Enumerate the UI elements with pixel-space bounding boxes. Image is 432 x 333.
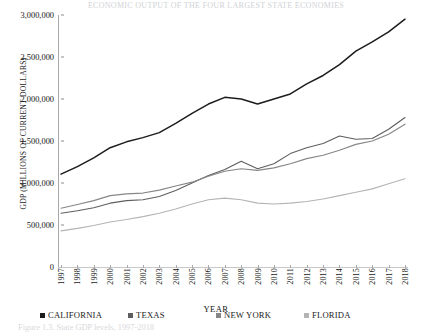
x-tick-mark	[127, 265, 128, 268]
x-tick-label: 2014	[335, 268, 344, 285]
y-tick-label: 2,500,000	[21, 53, 55, 62]
y-tick-label: 1,000,000	[21, 179, 55, 188]
x-tick-mark	[110, 265, 111, 268]
y-tick-label: 2,000,000	[21, 95, 55, 104]
x-tick-label: 2011	[286, 268, 295, 285]
plot-area: GDP (MILLIONS OF CURRENT DOLLARS) 0500,0…	[0, 9, 432, 305]
series-line-new-york	[61, 124, 405, 208]
x-tick-mark	[176, 265, 177, 268]
legend-item[interactable]: CALIFORNIA	[40, 310, 128, 320]
legend-item[interactable]: TEXAS	[128, 310, 216, 320]
x-tick-label: 1997	[57, 268, 66, 285]
x-tick-mark	[61, 265, 62, 268]
series-line-florida	[61, 179, 405, 231]
x-tick-mark	[192, 265, 193, 268]
x-tick-mark	[339, 265, 340, 268]
x-tick-mark	[323, 265, 324, 268]
x-tick-mark	[77, 265, 78, 268]
legend-label: CALIFORNIA	[48, 310, 102, 320]
x-tick-label: 2008	[237, 268, 246, 285]
legend-swatch-icon	[40, 313, 45, 318]
x-tick-label: 2009	[254, 268, 263, 285]
y-tick-label: 3,000,000	[21, 11, 55, 20]
x-tick-mark	[241, 265, 242, 268]
x-tick-mark	[372, 265, 373, 268]
x-tick-label: 2004	[172, 268, 181, 285]
x-tick-label: 2003	[155, 268, 164, 285]
legend-item[interactable]: NEW YORK	[216, 310, 304, 320]
x-tick-mark	[225, 265, 226, 268]
x-tick-mark	[208, 265, 209, 268]
x-tick-label: 2010	[270, 268, 279, 285]
x-tick-label: 2001	[123, 268, 132, 285]
chart-legend: CALIFORNIATEXASNEW YORKFLORIDA	[0, 310, 432, 320]
x-tick-label: 1999	[90, 268, 99, 285]
legend-swatch-icon	[216, 313, 221, 318]
x-tick-mark	[94, 265, 95, 268]
x-tick-mark	[274, 265, 275, 268]
x-tick-mark	[405, 265, 406, 268]
x-tick-label: 2018	[401, 268, 410, 285]
x-tick-mark	[389, 265, 390, 268]
legend-label: TEXAS	[136, 310, 165, 320]
x-tick-mark	[307, 265, 308, 268]
y-tick-label: 500,000	[27, 221, 54, 230]
legend-label: FLORIDA	[312, 310, 351, 320]
y-axis-tick-labels: 0500,0001,000,0001,500,0002,000,0002,500…	[6, 9, 54, 267]
x-tick-mark	[258, 265, 259, 268]
y-tick-label: 1,500,000	[21, 137, 55, 146]
x-tick-mark	[290, 265, 291, 268]
x-tick-label: 2006	[204, 268, 213, 285]
x-tick-label: 2012	[303, 268, 312, 285]
x-tick-label: 2015	[352, 268, 361, 285]
legend-swatch-icon	[128, 313, 133, 318]
x-tick-label: 2007	[221, 268, 230, 285]
figure-caption: Figure 1.3. State GDP levels, 1997-2018	[18, 323, 418, 333]
x-tick-label: 2005	[188, 268, 197, 285]
x-tick-label: 2000	[106, 268, 115, 285]
chart-canvas	[58, 15, 408, 267]
figure-container: ECONOMIC OUTPUT OF THE FOUR LARGEST STAT…	[0, 0, 432, 333]
y-tick-label: 0	[50, 263, 54, 272]
x-tick-mark	[159, 265, 160, 268]
x-tick-label: 2013	[319, 268, 328, 285]
x-tick-label: 2002	[139, 268, 148, 285]
cropped-header-text: ECONOMIC OUTPUT OF THE FOUR LARGEST STAT…	[0, 0, 432, 9]
x-tick-mark	[356, 265, 357, 268]
x-tick-label: 1998	[73, 268, 82, 285]
x-tick-label: 2017	[385, 268, 394, 285]
legend-item[interactable]: FLORIDA	[304, 310, 392, 320]
legend-label: NEW YORK	[224, 310, 271, 320]
x-tick-label: 2016	[368, 268, 377, 285]
legend-swatch-icon	[304, 313, 309, 318]
x-tick-mark	[143, 265, 144, 268]
series-line-california	[61, 19, 405, 174]
